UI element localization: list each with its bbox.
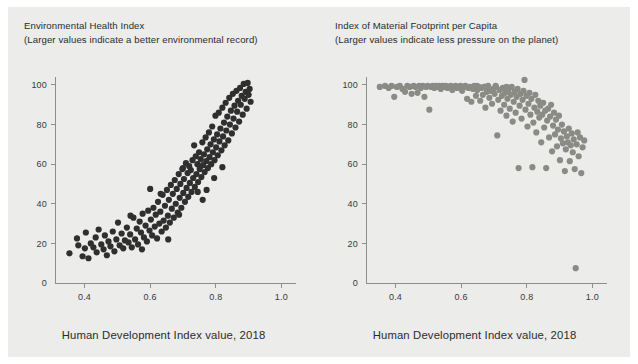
scatter-point (548, 102, 554, 108)
scatter-point (66, 250, 72, 256)
scatter-point (492, 91, 498, 97)
scatter-point (402, 89, 408, 95)
y-tick-label: 80 (348, 120, 358, 130)
scatter-point (474, 83, 480, 89)
scatter-point (521, 77, 527, 83)
scatter-point (510, 118, 516, 124)
scatter-point (529, 164, 535, 170)
scatter-point (147, 186, 153, 192)
scatter-point (507, 106, 513, 112)
y-tick-label: 40 (37, 199, 47, 209)
scatter-point (139, 246, 145, 252)
scatter-point (200, 197, 206, 203)
x-tick-label: 0.8 (209, 292, 222, 302)
x-tick-label: 1.0 (275, 292, 288, 302)
scatter-point (168, 182, 174, 188)
scatter-point (74, 235, 80, 241)
scatter-point (225, 137, 231, 143)
scatter-point (113, 236, 119, 242)
scatter-point (247, 86, 253, 92)
scatter-point (540, 100, 546, 106)
scatter-point (555, 126, 561, 132)
scatter-point (79, 253, 85, 259)
scatter-point (232, 124, 238, 130)
scatter-point (127, 213, 133, 219)
scatter-point (150, 205, 156, 211)
scatter-point (493, 83, 499, 89)
scatter-point (176, 171, 182, 177)
scatter-point (111, 248, 117, 254)
chart-environmental-health-index: Environmental Health Index (Larger value… (8, 7, 319, 357)
scatter-points (377, 77, 588, 271)
scatter-point (178, 205, 184, 211)
scatter-point (206, 129, 212, 135)
figure-container: Environmental Health Index (Larger value… (0, 0, 638, 364)
scatter-point (137, 219, 143, 225)
y-tick-label: 60 (348, 159, 358, 169)
x-tick-label: 0.4 (78, 292, 91, 302)
y-tick-label: 100 (342, 80, 358, 90)
scatter-point (177, 195, 183, 201)
scatter-point (550, 122, 556, 128)
scatter-point (530, 119, 536, 125)
scatter-point (180, 165, 186, 171)
scatter-point (223, 127, 229, 133)
scatter-point (127, 231, 133, 237)
scatter-point (188, 167, 194, 173)
scatter-point (229, 130, 235, 136)
chart-right-plot-area: 0204060801000.40.60.81.0 (319, 7, 630, 357)
scatter-point (144, 238, 150, 244)
scatter-point (162, 203, 168, 209)
scatter-point (157, 209, 163, 215)
scatter-point (163, 224, 169, 230)
scatter-point (546, 134, 552, 140)
scatter-point (516, 103, 522, 109)
chart-left-plot-area: 0204060801000.40.60.81.0 (8, 7, 319, 357)
scatter-point (177, 181, 183, 187)
scatter-point (148, 217, 154, 223)
scatter-point (238, 102, 244, 108)
scatter-point (538, 139, 544, 145)
scatter-point (195, 189, 201, 195)
scatter-point (176, 212, 182, 218)
scatter-point (468, 99, 474, 105)
scatter-point (222, 142, 228, 148)
scatter-point (556, 113, 562, 119)
scatter-point (532, 92, 538, 98)
scatter-point (120, 245, 126, 251)
scatter-point (247, 99, 253, 105)
scatter-point (166, 197, 172, 203)
scatter-point (421, 94, 427, 100)
scatter-point (497, 108, 503, 114)
scatter-point (569, 130, 575, 136)
scatter-point (213, 144, 219, 150)
scatter-point (533, 129, 539, 135)
scatter-point (494, 132, 500, 138)
scatter-point (527, 112, 533, 118)
scatter-point (169, 206, 175, 212)
scatter-point (83, 229, 89, 235)
scatter-point (227, 121, 233, 127)
y-tick-label: 60 (37, 159, 47, 169)
scatter-point (170, 191, 176, 197)
scatter-point (503, 84, 509, 90)
scatter-point (172, 177, 178, 183)
scatter-point (503, 113, 509, 119)
scatter-point (216, 110, 222, 116)
chart-right-xaxis-caption: Human Development Index value, 2018 (319, 329, 630, 341)
scatter-points (66, 80, 253, 262)
scatter-point (115, 219, 121, 225)
scatter-point (100, 246, 106, 252)
scatter-point (124, 224, 130, 230)
scatter-point (135, 241, 141, 247)
y-tick-label: 100 (31, 80, 47, 90)
x-tick-label: 0.4 (389, 292, 402, 302)
scatter-point (572, 166, 578, 172)
chart-material-footprint-index: Index of Material Footprint per Capita (… (319, 7, 630, 357)
scatter-point (165, 213, 171, 219)
scatter-point (570, 149, 576, 155)
scatter-point (82, 245, 88, 251)
x-tick-label: 1.0 (586, 292, 599, 302)
scatter-point (524, 123, 530, 129)
scatter-point (244, 106, 250, 112)
